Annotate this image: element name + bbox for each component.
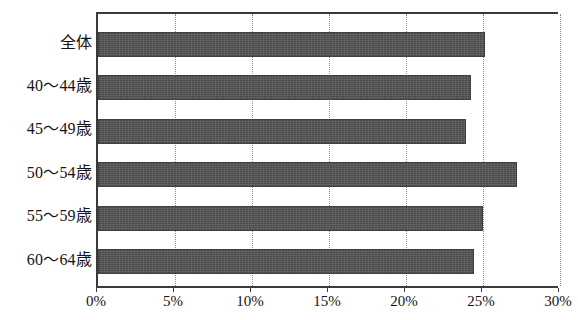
category-label: 45～49歳: [0, 121, 92, 137]
x-axis-tick-label: 20%: [374, 292, 434, 310]
bar-row: [98, 249, 560, 274]
x-axis-tick-label: 30%: [528, 292, 578, 310]
bar-row: [98, 75, 560, 100]
x-axis-tick-label: 25%: [451, 292, 511, 310]
category-label: 55～59歳: [0, 208, 92, 224]
bar[interactable]: [98, 32, 485, 57]
bar-row: [98, 162, 560, 187]
bar[interactable]: [98, 206, 483, 231]
plot-area: [96, 12, 558, 288]
category-label: 60～64歳: [0, 252, 92, 268]
bar[interactable]: [98, 249, 474, 274]
x-axis-tick-label: 10%: [220, 292, 280, 310]
bar[interactable]: [98, 75, 471, 100]
category-label: 全体: [0, 35, 92, 51]
x-axis-tick-label: 15%: [297, 292, 357, 310]
category-label: 50～54歳: [0, 165, 92, 181]
bar[interactable]: [98, 119, 466, 144]
bar-row: [98, 119, 560, 144]
category-label: 40～44歳: [0, 78, 92, 94]
x-axis-tick-label: 0%: [66, 292, 126, 310]
bar-row: [98, 206, 560, 231]
bar[interactable]: [98, 162, 517, 187]
x-axis-tick-label: 5%: [143, 292, 203, 310]
bars-layer: [98, 14, 558, 286]
bar-chart: 全体40～44歳45～49歳50～54歳55～59歳60～64歳 0%5%10%…: [0, 0, 578, 320]
bar-row: [98, 32, 560, 57]
gridline: [560, 14, 561, 286]
